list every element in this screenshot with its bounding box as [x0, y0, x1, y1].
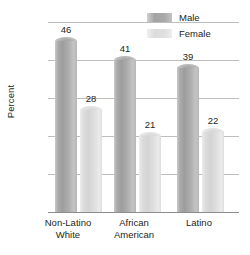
x-axis-label-line1: Latino: [186, 217, 212, 228]
bar-value-female-latino: 22: [202, 116, 224, 126]
legend: Male Female: [147, 11, 211, 43]
legend-swatch-male-icon: [147, 13, 172, 22]
bar-female-non-latino-white[interactable]: [80, 106, 102, 212]
bar-male-non-latino-white[interactable]: [55, 37, 77, 212]
bar-male-latino[interactable]: [177, 64, 199, 212]
legend-item-female[interactable]: Female: [147, 27, 211, 40]
bar-body: [55, 41, 77, 212]
x-axis-label-latino: Latino: [176, 217, 222, 229]
legend-label-female: Female: [179, 29, 211, 39]
bar-body: [139, 136, 161, 212]
bar-value-female-non-latino-white: 28: [80, 94, 102, 104]
bar-value-male-non-latino-white: 46: [55, 25, 77, 35]
legend-label-male: Male: [179, 13, 200, 23]
bar-body: [177, 68, 199, 212]
x-axis-label-line2: White: [40, 229, 96, 241]
bar-male-african-american[interactable]: [114, 56, 136, 212]
bar-body: [114, 60, 136, 212]
plot-area: 46 28 41 21 39 22: [48, 22, 239, 212]
x-axis-label-line1: Non-Latino: [45, 217, 91, 228]
bar-value-male-african-american: 41: [114, 44, 136, 54]
legend-item-male[interactable]: Male: [147, 11, 211, 24]
bar-body: [202, 132, 224, 212]
bar-female-latino[interactable]: [202, 128, 224, 212]
x-axis-label-non-latino-white: Non-Latino White: [40, 217, 96, 240]
bar-chart: Percent 50 40 30 20 10 0 46 28 41: [0, 0, 250, 255]
x-axis-label-line1: African: [119, 217, 149, 228]
y-axis-title: Percent: [5, 67, 16, 137]
x-axis-label-line2: American: [109, 229, 159, 241]
bar-female-african-american[interactable]: [139, 132, 161, 212]
bar-value-female-african-american: 21: [139, 120, 161, 130]
x-axis-label-african-american: African American: [109, 217, 159, 240]
bar-value-male-latino: 39: [177, 52, 199, 62]
x-axis-baseline: [48, 212, 239, 213]
legend-swatch-female-icon: [147, 29, 172, 38]
bar-body: [80, 110, 102, 212]
